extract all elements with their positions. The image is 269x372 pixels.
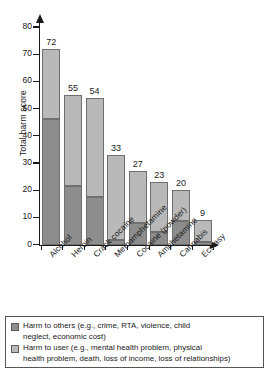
chart-legend: Harm to others (e.g., crime, RTA, violen… bbox=[5, 316, 264, 368]
bar-alcohol[interactable]: 72 bbox=[42, 0, 60, 260]
bar-segment-harm-to-others bbox=[42, 119, 60, 244]
legend-swatch-harm-to-user bbox=[11, 345, 19, 353]
legend-item-harm-to-others: Harm to others (e.g., crime, RTA, violen… bbox=[11, 321, 263, 342]
bar-heroin[interactable]: 55 bbox=[64, 0, 82, 260]
legend-label-harm-to-user: Harm to user (e.g., mental health proble… bbox=[23, 343, 263, 364]
legend-item-harm-to-user: Harm to user (e.g., mental health proble… bbox=[11, 343, 263, 364]
chart-figure: Total harm score 01020304050607080 72555… bbox=[0, 0, 269, 372]
bar-crack-cocaine[interactable]: 54 bbox=[86, 0, 104, 260]
bar-value-label: 55 bbox=[68, 83, 78, 93]
bar-value-label: 9 bbox=[200, 208, 205, 218]
bar-value-label: 27 bbox=[133, 159, 143, 169]
bar-segment-harm-to-user bbox=[86, 98, 104, 197]
bar-value-label: 20 bbox=[176, 178, 186, 188]
bar-value-label: 23 bbox=[154, 170, 164, 180]
legend-label-harm-to-others: Harm to others (e.g., crime, RTA, violen… bbox=[23, 321, 263, 342]
bar-segment-harm-to-user bbox=[64, 95, 82, 186]
bar-value-label: 54 bbox=[89, 86, 99, 96]
bar-value-label: 72 bbox=[46, 37, 56, 47]
bar-segment-harm-to-user bbox=[42, 49, 60, 120]
bar-segment-harm-to-user bbox=[129, 171, 147, 223]
legend-swatch-harm-to-others bbox=[11, 323, 19, 331]
bar-value-label: 33 bbox=[111, 143, 121, 153]
plot-area: Total harm score 01020304050607080 72555… bbox=[0, 0, 269, 312]
